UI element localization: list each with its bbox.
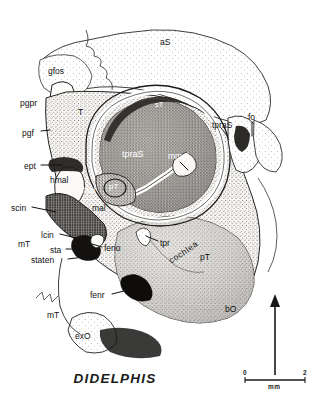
anatomy-label-sta: sta	[50, 246, 61, 255]
scale-max-label: 2	[303, 369, 307, 376]
anatomy-label-tpr: tpr	[160, 239, 170, 248]
basioccipital-edge	[258, 178, 277, 272]
scale-min-label: 0	[243, 369, 247, 376]
anatomy-label-scin: scin	[11, 204, 26, 213]
anatomy-label-hmal: hmal	[50, 176, 68, 185]
anatomy-label-mmal: mmal	[168, 152, 189, 161]
anatomy-label-lcin: lcin	[41, 231, 54, 240]
anatomy-label-tpraS1: tpraS	[122, 150, 144, 159]
figure-caption: DIDELPHIS	[0, 371, 230, 386]
anatomy-label-exO: exO	[75, 332, 91, 341]
anatomy-label-feno: feno	[104, 244, 121, 253]
anatomy-label-gfos: gfos	[48, 67, 64, 76]
anatomy-label-lmal: lmal	[80, 186, 96, 195]
exoccipital-shadow	[100, 328, 162, 359]
anatomy-label-tpraS2: tpraS	[212, 121, 232, 130]
anatomy-label-bO: bO	[225, 305, 236, 314]
anatomy-label-fenr: fenr	[90, 291, 105, 300]
anatomy-label-pgf: pgf	[22, 129, 34, 138]
scale-unit-label: mm	[268, 383, 281, 390]
skull-drawing	[36, 30, 282, 358]
anatomy-label-staten: staten	[31, 256, 54, 265]
lateral-spur	[253, 120, 282, 172]
anatomy-label-pgpr: pgpr	[20, 99, 37, 108]
anatomy-label-T: T	[78, 108, 83, 117]
anatomy-label-pT: pT	[109, 183, 118, 191]
anatomy-label-mT1: mT	[18, 240, 30, 249]
anatomy-label-fo: fo	[248, 113, 255, 122]
anatomy-label-mal: mal	[92, 204, 106, 213]
anatomy-label-mT2: mT	[47, 311, 59, 320]
broken-edge	[36, 292, 58, 302]
anatomy-label-sT: sT	[155, 101, 163, 109]
anatomical-figure: cochlea	[0, 0, 316, 405]
anatomy-label-ept: ept	[24, 162, 36, 171]
anatomy-label-pT2: pT	[200, 253, 210, 262]
anatomy-label-aS: aS	[160, 38, 170, 47]
orientation-arrow	[270, 294, 280, 375]
